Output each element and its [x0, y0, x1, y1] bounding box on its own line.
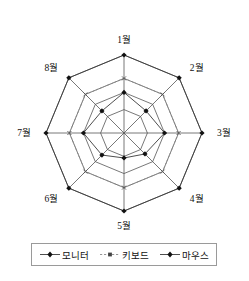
radar-axis-spoke [69, 78, 124, 133]
radar-axis-spoke [124, 133, 179, 188]
legend-label: 키보드 [122, 248, 149, 262]
axis-label-4월: 4월 [190, 193, 204, 204]
legend-swatch-dashed-x [100, 250, 120, 259]
axis-label-6월: 6월 [44, 193, 58, 204]
radar-axis-spoke [69, 133, 124, 188]
axis-label-2월: 2월 [190, 62, 204, 73]
axis-label-7월: 7월 [17, 127, 31, 138]
legend-item-keyboard[interactable]: 키보드 [100, 248, 149, 262]
radar-point-marker [83, 92, 87, 96]
radar-point-marker [121, 52, 126, 57]
radar-point-marker [43, 130, 48, 135]
radar-point-marker [161, 170, 165, 174]
legend-item-mouse[interactable]: 마우스 [160, 248, 209, 262]
legend-item-monitor[interactable]: 모니터 [40, 248, 89, 262]
radar-axis-spoke [124, 78, 179, 133]
radar-plot-area: 1월2월3월4월5월6월7월8월 [0, 0, 249, 281]
radar-point-marker [161, 92, 165, 96]
legend-swatch-solid-diamond-2 [160, 250, 180, 259]
axis-label-8월: 8월 [44, 62, 58, 73]
legend-swatch-solid-diamond [40, 250, 60, 259]
axis-label-3월: 3월 [217, 127, 231, 138]
radar-point-marker [199, 130, 204, 135]
radar-chart: 1월2월3월4월5월6월7월8월 모니터 키보드 마우스 [0, 0, 249, 281]
chart-legend: 모니터 키보드 마우스 [31, 243, 217, 266]
legend-label: 마우스 [182, 248, 209, 262]
radar-point-marker [83, 170, 87, 174]
axis-label-5월: 5월 [117, 220, 131, 231]
axis-label-1월: 1월 [117, 34, 131, 45]
radar-point-marker [121, 155, 126, 160]
radar-point-marker [121, 208, 126, 213]
legend-label: 모니터 [62, 248, 89, 262]
